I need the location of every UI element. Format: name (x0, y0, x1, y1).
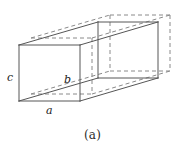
solid-depth-edge-top-left (19, 22, 98, 45)
dashed-outer-box (31, 15, 170, 94)
dimension-label-b: b (64, 74, 71, 85)
solid-inner-box (19, 22, 158, 101)
solid-depth-edge-bottom-left (19, 78, 98, 101)
box-diagram (0, 0, 185, 149)
figure-caption: (a) (0, 128, 185, 142)
dimension-label-a: a (46, 105, 53, 116)
dimension-label-c: c (7, 72, 13, 83)
figure-container: c b a (a) (0, 0, 185, 149)
solid-depth-edge-top-right (80, 22, 158, 45)
